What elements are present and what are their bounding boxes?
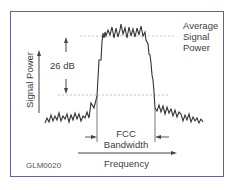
x-axis-label: Frequency [104, 158, 149, 169]
x-axis-arrowhead-icon [171, 151, 177, 155]
y-axis-arrowhead-icon [37, 50, 41, 56]
down-arrowhead-icon [64, 88, 68, 94]
left-arrowhead-icon [155, 135, 161, 139]
bandwidth-label-line-1: FCC [100, 128, 152, 139]
figure-code: GLM0020 [26, 160, 61, 171]
up-arrowhead-icon [64, 37, 68, 43]
bandwidth-label-line-2: Bandwidth [100, 139, 152, 150]
delta-label: 26 dB [50, 60, 75, 71]
right-arrowhead-icon [91, 135, 97, 139]
average-label-line-1: Average [183, 20, 218, 31]
fcc-bandwidth-label: FCC Bandwidth [100, 128, 152, 150]
average-label-line-2: Signal [183, 31, 218, 42]
average-label-line-3: Power [183, 42, 218, 53]
y-axis-label: Signal Power [24, 52, 35, 108]
average-signal-power-label: Average Signal Power [183, 20, 218, 53]
spectrum-trace [45, 24, 203, 123]
